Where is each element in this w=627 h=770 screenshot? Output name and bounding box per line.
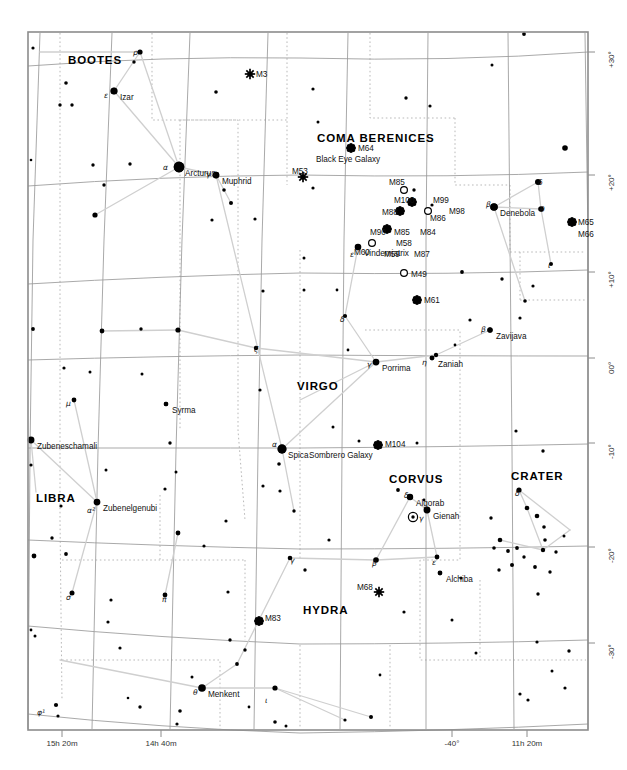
star-point (31, 46, 34, 49)
star-point (468, 318, 471, 321)
star-point (518, 316, 521, 319)
named-star-point (94, 499, 101, 506)
constellation-name: BOOTES (68, 54, 122, 66)
star-point (514, 429, 517, 432)
star-point (292, 509, 295, 512)
constellation-name: CRATER (511, 470, 563, 482)
star-point (369, 715, 373, 719)
star-point (127, 697, 130, 700)
star-name: Zubenelgenubi (103, 504, 157, 513)
star-point (141, 373, 144, 376)
galaxy-marker (373, 440, 383, 450)
circled-dot-icon (408, 512, 417, 521)
star-name: Denebola (500, 209, 535, 218)
star-point (563, 535, 566, 538)
star-name: Gienah (433, 512, 459, 521)
named-star-point (373, 359, 380, 366)
star-point (92, 212, 97, 217)
star-point (72, 398, 77, 403)
messier-label: M68 (357, 583, 373, 592)
star-point (475, 652, 478, 655)
star-point (500, 277, 503, 280)
messier-label: M3 (256, 70, 267, 79)
open-circle-marker (401, 187, 408, 194)
star-point (224, 519, 227, 522)
greek-letter: α (163, 163, 168, 172)
star-point (492, 546, 496, 550)
greek-letter: β (486, 200, 491, 209)
star-point (258, 388, 261, 391)
star-name: Izar (120, 93, 134, 102)
star-point (506, 549, 510, 553)
star-point (176, 531, 181, 536)
messier-label: M99 (433, 196, 449, 205)
star-point (272, 685, 277, 690)
star-name: Muphrid (222, 177, 252, 186)
star-point (102, 183, 105, 186)
star-point (428, 104, 431, 107)
star-point (402, 610, 405, 613)
star-point (278, 489, 281, 492)
star-point (497, 568, 500, 571)
star-point (59, 504, 62, 507)
greek-letter: γ (206, 170, 211, 179)
star-point (562, 145, 568, 151)
star-point (31, 327, 35, 331)
named-star-point (430, 356, 435, 361)
star-point (64, 81, 68, 85)
named-star-point (174, 162, 185, 173)
star-point (460, 270, 464, 274)
star-point (327, 538, 330, 541)
greek-letter: ε (104, 91, 108, 100)
star-point (222, 188, 226, 192)
galaxy-marker (346, 143, 356, 153)
greek-letter: θ (193, 688, 198, 697)
messier-label: M90 (370, 228, 386, 237)
named-star-point (198, 684, 206, 692)
star-point (535, 640, 538, 643)
star-point (515, 546, 519, 550)
named-star-point (110, 87, 117, 94)
messier-label: M59 (384, 250, 400, 259)
star-point (109, 598, 112, 601)
named-star-point (487, 327, 492, 332)
star-name: Algorab (416, 499, 444, 508)
greek-letter: φ¹ (37, 708, 45, 717)
star-point (541, 449, 544, 452)
star-point (228, 638, 231, 641)
messier-label: M53 (292, 167, 308, 176)
star-point (536, 592, 539, 595)
star-point (253, 217, 256, 220)
star-point (105, 469, 108, 472)
greek-letter: π (162, 595, 167, 604)
star-point (303, 289, 306, 292)
star-point (175, 722, 178, 725)
star-point (317, 121, 320, 124)
star-point (533, 565, 537, 569)
greek-letter: γ (419, 514, 424, 523)
star-name: Alchiba (446, 575, 473, 584)
star-point (191, 676, 194, 679)
star-point (347, 349, 350, 352)
star-point (498, 538, 503, 543)
galaxy-marker (254, 616, 264, 626)
star-point (30, 629, 33, 632)
star-point (235, 662, 239, 666)
named-star-point (438, 571, 443, 576)
constellation-name: HYDRA (303, 604, 348, 616)
star-point (332, 426, 335, 429)
star-point (100, 329, 105, 334)
star-point (229, 201, 233, 205)
greek-letter: η (422, 358, 427, 367)
galaxy-marker (412, 295, 422, 305)
open-circle-marker (401, 270, 408, 277)
ra-axis-label: 11h 20m (512, 739, 543, 748)
star-point (454, 344, 457, 347)
star-point (62, 366, 65, 369)
ra-axis-label: 14h 40m (145, 739, 176, 748)
messier-label: M66 (578, 230, 594, 239)
star-point (118, 646, 121, 649)
star-name: Zubeneschamali (37, 442, 97, 451)
star-point (303, 568, 306, 571)
star-point (243, 648, 246, 651)
